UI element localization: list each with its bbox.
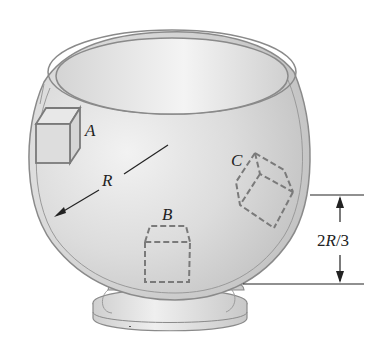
label-block-a: A xyxy=(84,121,96,140)
label-block-c: C xyxy=(231,151,243,170)
diagram-canvas: A R B C 2R/3 xyxy=(0,0,384,355)
label-block-b: B xyxy=(162,205,173,224)
label-height: 2R/3 xyxy=(317,231,349,250)
label-radius: R xyxy=(101,171,113,190)
bowl-diagram: A R B C 2R/3 xyxy=(0,0,384,355)
block-a xyxy=(36,108,80,163)
